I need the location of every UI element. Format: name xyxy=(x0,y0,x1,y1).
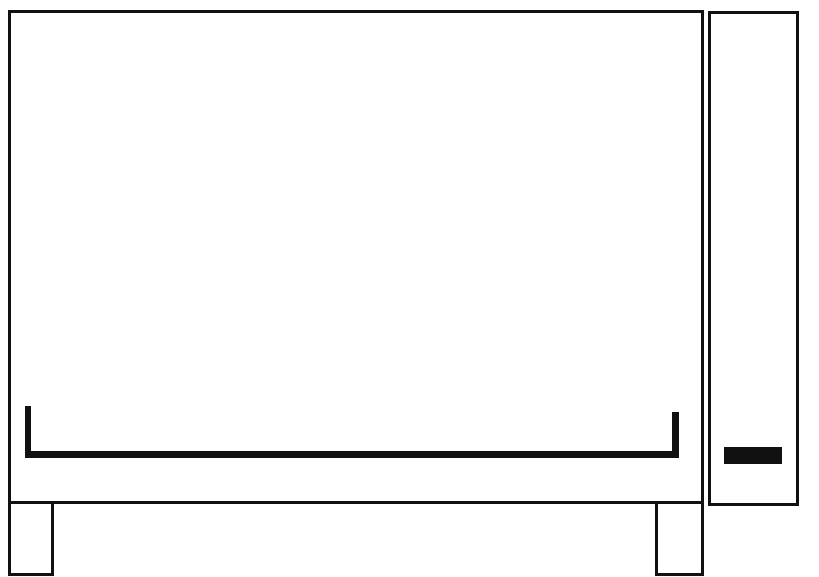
handle-right-arm xyxy=(672,412,679,458)
left-leg xyxy=(8,501,54,576)
main-body xyxy=(8,10,704,504)
side-panel xyxy=(708,11,799,506)
panel-button[interactable] xyxy=(724,447,782,464)
right-leg xyxy=(655,501,704,576)
handle-bar xyxy=(25,451,679,458)
